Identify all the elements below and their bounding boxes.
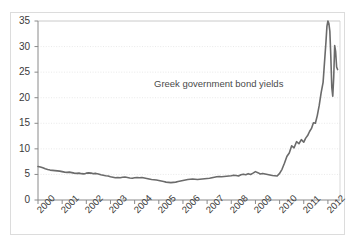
y-axis-tick-label: 10	[8, 144, 30, 154]
y-axis-ticks	[35, 21, 39, 200]
y-axis-tick-label: 20	[8, 93, 30, 103]
y-axis-tick-label: 30	[8, 42, 30, 52]
gridlines	[38, 21, 340, 174]
y-axis-tick-label: 15	[8, 118, 30, 128]
data-series-line	[38, 21, 338, 183]
series-annotation-label: Greek government bond yields	[154, 78, 283, 89]
y-axis-tick-label: 25	[8, 67, 30, 77]
y-axis-tick-label: 0	[8, 195, 30, 205]
y-axis-tick-label: 35	[8, 16, 30, 26]
chart-figure: 05101520253035 2000200120022003200420052…	[0, 0, 358, 248]
y-axis-tick-label: 5	[8, 169, 30, 179]
